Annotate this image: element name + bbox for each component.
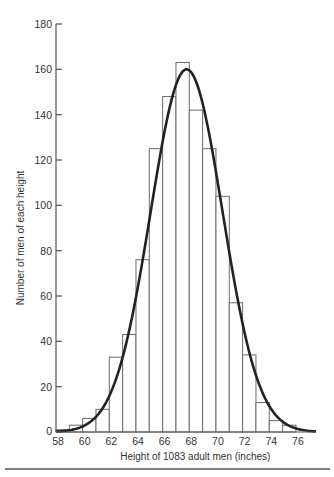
y-tick-label: 160 — [34, 63, 52, 75]
x-tick-label: 60 — [79, 435, 91, 447]
x-axis-label: Height of 1083 adult men (inches) — [120, 451, 270, 462]
histogram-bar — [256, 403, 269, 432]
y-tick-label: 180 — [34, 18, 52, 30]
y-ticks-group: 020406080100120140160180 — [34, 18, 62, 437]
histogram-bar — [189, 110, 202, 432]
histogram-bar — [216, 196, 229, 432]
histogram-bar — [229, 303, 242, 432]
x-tick-label: 76 — [292, 435, 304, 447]
x-tick-label: 70 — [212, 435, 224, 447]
y-tick-label: 120 — [34, 154, 52, 166]
y-tick-label: 40 — [40, 335, 52, 347]
bars-group — [56, 63, 296, 432]
x-tick-label: 72 — [239, 435, 251, 447]
x-ticks-group: 58606264666870727476 — [52, 435, 304, 447]
histogram-bar — [269, 421, 282, 432]
x-tick-label: 74 — [265, 435, 277, 447]
y-tick-label: 20 — [40, 381, 52, 393]
x-tick-label: 58 — [52, 435, 64, 447]
histogram-bar — [176, 63, 189, 432]
x-tick-label: 66 — [159, 435, 171, 447]
histogram-chart: 020406080100120140160180 586062646668707… — [0, 0, 334, 477]
x-tick-label: 68 — [185, 435, 197, 447]
y-tick-label: 80 — [40, 245, 52, 257]
y-tick-label: 140 — [34, 109, 52, 121]
y-tick-label: 100 — [34, 199, 52, 211]
histogram-bar — [163, 97, 176, 432]
histogram-bar — [203, 149, 216, 432]
y-axis-label: Number of men of each height — [15, 171, 26, 306]
histogram-bar — [149, 149, 162, 432]
x-tick-label: 62 — [105, 435, 117, 447]
x-tick-label: 64 — [132, 435, 144, 447]
y-tick-label: 60 — [40, 290, 52, 302]
